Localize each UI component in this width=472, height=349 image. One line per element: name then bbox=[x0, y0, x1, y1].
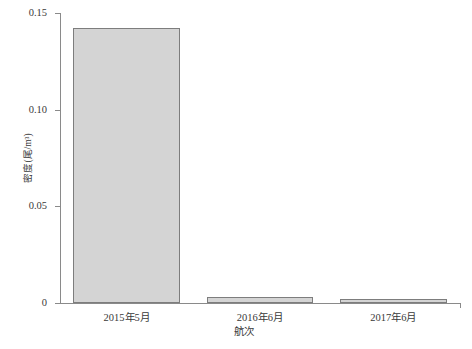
x-axis-category-label-2: 2017年6月 bbox=[327, 311, 460, 325]
x-axis-category-label-0: 2015年5月 bbox=[60, 311, 193, 325]
x-axis-title: 航次 bbox=[0, 325, 472, 339]
y-axis-tick-0 bbox=[55, 303, 60, 304]
x-axis-category-label-1: 2016年6月 bbox=[193, 311, 326, 325]
bar-2016-06 bbox=[207, 297, 314, 303]
bar-2017-06 bbox=[340, 299, 447, 303]
x-axis-line bbox=[60, 303, 461, 304]
bar-2015-05 bbox=[73, 28, 180, 303]
bar-chart-figure: 0.15 0.10 0.05 0 密度(尾/m³) 2015年5月 2016年6… bbox=[0, 0, 472, 349]
y-axis-tick-label-0: 0 bbox=[42, 296, 47, 309]
plot-area bbox=[60, 13, 460, 303]
x-axis-end-tick bbox=[460, 303, 461, 308]
x-axis-title-text: 航次 bbox=[234, 326, 254, 337]
y-axis-title: 密度(尾/m³) bbox=[20, 13, 36, 303]
